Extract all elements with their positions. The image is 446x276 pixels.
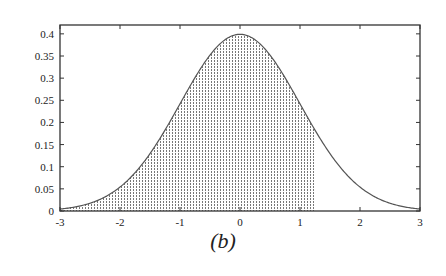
y-tick-label: 0.05 (35, 183, 55, 195)
shaded-area (60, 34, 420, 211)
normal-distribution-chart: -3-2-10123 00.050.10.150.20.250.30.350.4 (0, 0, 446, 230)
y-tick-label: 0 (49, 205, 55, 217)
y-tick-label: 0.3 (40, 72, 54, 84)
x-tick-label: 0 (237, 216, 243, 228)
y-tick-label: 0.25 (35, 94, 55, 106)
y-tick-label: 0.2 (40, 116, 54, 128)
figure-caption: (b) (0, 228, 446, 254)
x-tick-label: -1 (175, 216, 184, 228)
y-tick-label: 0.1 (40, 161, 54, 173)
x-tick-label: 2 (357, 216, 363, 228)
x-tick-label: 1 (297, 216, 303, 228)
y-tick-label: 0.35 (35, 50, 55, 62)
x-tick-label: -3 (55, 216, 65, 228)
y-tick-label: 0.4 (40, 28, 54, 40)
y-tick-label: 0.15 (35, 139, 55, 151)
x-tick-label: -2 (115, 216, 124, 228)
x-tick-label: 3 (417, 216, 423, 228)
